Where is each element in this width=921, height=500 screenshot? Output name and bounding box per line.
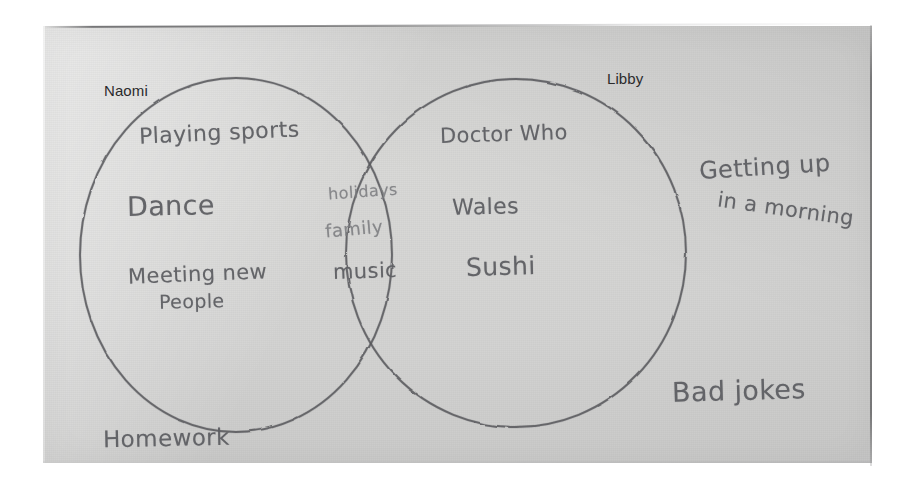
paper-bottom-edge xyxy=(43,461,872,463)
item-music: music xyxy=(333,258,398,284)
item-sushi: Sushi xyxy=(466,251,536,282)
item-bad-jokes: Bad jokes xyxy=(672,373,807,408)
paper-right-edge xyxy=(870,25,872,466)
paper-top-edge xyxy=(43,23,872,28)
photo-canvas: Naomi Libby Playing sports Dance Meeting… xyxy=(0,0,921,500)
item-people: People xyxy=(159,289,225,313)
set-label-naomi: Naomi xyxy=(104,82,148,99)
paper-left-edge xyxy=(43,26,45,463)
item-homework: Homework xyxy=(103,424,230,453)
set-label-libby: Libby xyxy=(607,70,643,87)
item-wales: Wales xyxy=(452,193,519,219)
item-doctor-who: Doctor Who xyxy=(440,120,569,148)
item-dance: Dance xyxy=(127,189,216,222)
